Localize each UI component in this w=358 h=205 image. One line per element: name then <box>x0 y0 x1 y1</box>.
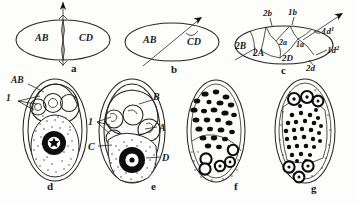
panel-e-label-C: C <box>88 141 95 152</box>
panel-c-label-2b: 2b <box>262 8 273 18</box>
panel-f: f <box>187 80 245 192</box>
panel-d: AB 1 d <box>6 75 87 192</box>
figure-canvas: AB CD a AB CD b 2b 1b <box>0 0 358 205</box>
panel-a: AB CD a <box>16 2 110 74</box>
panel-d-label-1: 1 <box>6 93 11 103</box>
panel-e: B 1 A C D e <box>88 79 169 192</box>
ring-cells-f <box>199 145 238 175</box>
panel-b: AB CD b <box>125 17 219 75</box>
ring-cells-g-bottom <box>283 160 313 182</box>
panel-c-label-2A: 2A <box>252 48 264 58</box>
cell-mass-g <box>284 104 323 163</box>
panel-e-label-1: 1 <box>88 116 93 127</box>
embryology-figure: AB CD a AB CD b 2b 1b <box>0 0 358 205</box>
panel-g: g <box>275 79 335 194</box>
panel-e-label-D: D <box>161 152 169 163</box>
panel-e-label-A: A <box>158 122 166 133</box>
panel-a-label-AB: AB <box>34 32 49 43</box>
ring-cells-g-top <box>288 91 323 106</box>
panel-c-label-2a: 2a <box>278 38 287 47</box>
panel-b-label-AB: AB <box>142 34 157 45</box>
panel-letter-d: d <box>47 180 53 192</box>
panel-c-label-1d1: 1d1 <box>322 25 334 36</box>
panel-letter-f: f <box>234 180 238 192</box>
panel-e-label-B: B <box>152 91 160 102</box>
panel-c-label-1b: 1b <box>288 7 298 17</box>
panel-letter-e: e <box>151 180 156 192</box>
panel-letter-b: b <box>171 63 177 75</box>
panel-c-label-1d2: 1d2 <box>327 44 340 55</box>
panel-c-label-2B: 2B <box>234 41 246 51</box>
panel-c-label-2D: 2D <box>281 53 294 63</box>
panel-c: 2b 1b 2B 2A 2a 1a 2D 2d 1d1 1d2 c <box>234 7 343 76</box>
panel-letter-c: c <box>281 64 286 76</box>
panel-c-label-1a: 1a <box>296 40 304 49</box>
panel-c-label-2d: 2d <box>305 63 316 73</box>
panel-letter-a: a <box>71 62 77 74</box>
panel-b-label-CD: CD <box>187 36 201 47</box>
panel-a-label-CD: CD <box>79 32 93 43</box>
panel-d-label-AB: AB <box>10 75 24 85</box>
panel-letter-g: g <box>311 182 317 194</box>
